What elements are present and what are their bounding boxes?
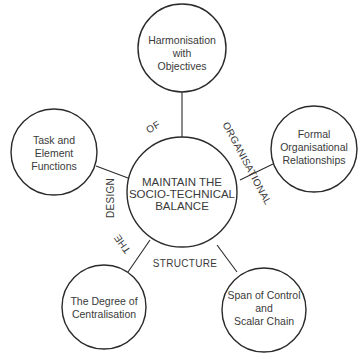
ring-word-design: DESIGN xyxy=(105,178,116,218)
node-centralisation: The Degree of Centralisation xyxy=(62,265,146,349)
connector-bottom-right xyxy=(217,245,237,272)
node-label-line: Task and xyxy=(33,134,75,146)
node-label-line: and xyxy=(255,302,273,314)
center-line-2: SOCIO-TECHNICAL xyxy=(129,188,236,200)
node-label-line: Element xyxy=(35,147,74,159)
node-label-line: Relationships xyxy=(282,154,345,166)
ring-word-the: THE xyxy=(112,232,133,255)
node-label-line: The Degree of xyxy=(70,295,137,307)
node-span-of-control: Span of Control and Scalar Chain xyxy=(222,268,306,352)
center-node: MAINTAIN THE SOCIO-TECHNICAL BALANCE xyxy=(127,137,237,247)
node-label-line: Centralisation xyxy=(72,308,136,320)
connector-left xyxy=(96,166,128,178)
connector-bottom-left xyxy=(128,240,150,272)
center-line-3: BALANCE xyxy=(155,200,209,212)
node-label-line: Objectives xyxy=(157,60,206,72)
node-circle xyxy=(62,265,146,349)
center-line-1: MAINTAIN THE xyxy=(142,176,222,188)
ring-word-structure: STRUCTURE xyxy=(153,258,217,269)
node-label-line: Harmonisation xyxy=(148,34,216,46)
node-harmonisation: Harmonisation with Objectives xyxy=(138,4,226,92)
ring-word-of: OF xyxy=(144,119,162,136)
node-formal-relationships: Formal Organisational Relationships xyxy=(271,106,357,192)
node-label-line: with xyxy=(172,47,192,59)
node-label-line: Scalar Chain xyxy=(234,315,294,327)
node-task-element: Task and Element Functions xyxy=(11,109,97,195)
socio-technical-diagram: MAINTAIN THE SOCIO-TECHNICAL BALANCE Har… xyxy=(0,0,364,359)
node-label-line: Formal xyxy=(298,128,331,140)
node-label-line: Span of Control xyxy=(228,289,301,301)
node-label-line: Organisational xyxy=(280,141,348,153)
node-label-line: Functions xyxy=(31,160,77,172)
